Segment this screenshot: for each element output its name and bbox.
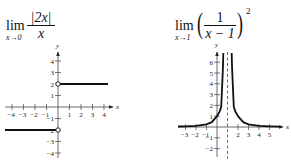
svg-text:−2: −2 — [191, 131, 199, 139]
svg-text:4: 4 — [257, 131, 261, 139]
y-axis-label: y — [214, 41, 219, 49]
y-tick-labels: 4 3 2 1 −1 −2 −3 −4 — [47, 58, 55, 158]
svg-text:−1: −1 — [47, 115, 55, 123]
graph-left: x y −4 −3 −2 −1 1 2 3 4 — [5, 42, 120, 158]
svg-text:4: 4 — [102, 111, 106, 119]
svg-text:2: 2 — [79, 111, 83, 119]
svg-text:2: 2 — [51, 81, 55, 89]
y-tick-labels: 6 5 4 3 2 1 −1 −2 — [206, 59, 214, 153]
svg-text:3: 3 — [247, 131, 251, 139]
svg-text:1: 1 — [68, 111, 72, 119]
svg-text:3: 3 — [91, 111, 95, 119]
svg-text:−2: −2 — [30, 111, 38, 119]
open-circle-lower — [56, 128, 60, 132]
svg-text:−3: −3 — [47, 138, 55, 146]
svg-text:−2: −2 — [206, 145, 214, 153]
curve-right-branch — [232, 53, 281, 127]
svg-text:4: 4 — [210, 80, 214, 88]
svg-text:5: 5 — [210, 70, 214, 78]
svg-text:−4: −4 — [7, 111, 15, 119]
curve-left-branch — [178, 53, 223, 127]
svg-text:6: 6 — [210, 59, 214, 67]
svg-text:3: 3 — [210, 91, 214, 99]
svg-text:5: 5 — [268, 131, 272, 139]
svg-text:3: 3 — [51, 69, 55, 77]
graphs-canvas: x y −4 −3 −2 −1 1 2 3 4 — [0, 0, 291, 160]
y-axis-label: y — [55, 42, 60, 50]
open-circle-upper — [56, 82, 60, 86]
svg-text:1: 1 — [210, 113, 214, 121]
svg-text:−3: −3 — [181, 131, 189, 139]
svg-text:2: 2 — [236, 131, 240, 139]
svg-text:−4: −4 — [47, 150, 55, 158]
x-tick-labels: −3 −2 −1 2 3 4 5 — [181, 131, 272, 139]
x-tick-labels: −4 −3 −2 −1 1 2 3 4 — [7, 111, 106, 119]
x-axis-label: x — [285, 123, 290, 131]
svg-text:4: 4 — [51, 58, 55, 66]
svg-text:1: 1 — [51, 92, 55, 100]
svg-text:−1: −1 — [206, 134, 214, 142]
svg-text:−3: −3 — [19, 111, 27, 119]
graph-right: x y −3 −2 −1 2 3 4 5 — [178, 41, 290, 159]
x-axis-label: x — [115, 103, 120, 111]
svg-text:2: 2 — [210, 102, 214, 110]
